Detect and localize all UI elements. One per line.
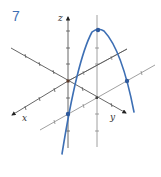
axes-diagram [0,0,161,177]
origin-point [67,80,70,83]
z-intercept-point [66,112,70,116]
y-axis-label: y [110,113,115,122]
guide-intersection-point [96,97,99,100]
parabola-3d-figure: 7 [0,0,161,177]
x-axis [12,81,68,115]
z-axis-label: z [58,14,63,23]
vertex-point [96,28,100,32]
x-axis-label: x [22,114,27,123]
right-intercept-point [125,79,129,83]
